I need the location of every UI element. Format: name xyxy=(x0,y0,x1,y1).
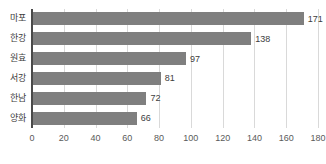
bar-value-label: 81 xyxy=(165,74,175,83)
bar-value-label: 97 xyxy=(190,54,200,63)
x-tick-label: 40 xyxy=(91,131,101,145)
category-label: 원효 xyxy=(10,52,26,65)
x-tick-label: 120 xyxy=(215,131,230,145)
y-axis-line xyxy=(31,9,33,128)
bar[interactable] xyxy=(32,12,304,25)
x-tick-label: 180 xyxy=(310,131,325,145)
x-tick-label: 60 xyxy=(122,131,132,145)
category-label: 한남 xyxy=(10,92,26,105)
category-label: 마포 xyxy=(10,12,26,25)
bar-row: 138 xyxy=(32,32,318,45)
category-label: 양화 xyxy=(10,112,26,125)
x-tick-label: 20 xyxy=(59,131,69,145)
bar-value-label: 138 xyxy=(255,34,270,43)
bar-value-label: 72 xyxy=(150,94,160,103)
x-axis-tick-labels: 020406080100120140160180 xyxy=(32,131,318,145)
bar[interactable] xyxy=(32,92,146,105)
y-axis-category-labels: 마포한강원효서강한남양화 xyxy=(0,9,29,128)
x-tick-label: 140 xyxy=(247,131,262,145)
bar[interactable] xyxy=(32,52,186,65)
x-tick-label: 80 xyxy=(154,131,164,145)
x-tick-label: 0 xyxy=(29,131,34,145)
bar-row: 97 xyxy=(32,52,318,65)
bar-value-label: 66 xyxy=(141,114,151,123)
bar-series: 17113897817266 xyxy=(32,9,318,128)
bar-row: 72 xyxy=(32,92,318,105)
bar-row: 66 xyxy=(32,112,318,125)
bar-value-label: 171 xyxy=(308,14,323,23)
gridline xyxy=(318,9,319,128)
bar[interactable] xyxy=(32,112,137,125)
plot-area: 17113897817266 xyxy=(32,9,318,128)
bar[interactable] xyxy=(32,72,161,85)
bar-row: 81 xyxy=(32,72,318,85)
category-label: 한강 xyxy=(10,32,26,45)
x-tick-label: 100 xyxy=(183,131,198,145)
bar[interactable] xyxy=(32,32,251,45)
bar-chart: 17113897817266 마포한강원효서강한남양화 020406080100… xyxy=(0,0,326,164)
x-tick-label: 160 xyxy=(279,131,294,145)
category-label: 서강 xyxy=(10,72,26,85)
bar-row: 171 xyxy=(32,12,318,25)
